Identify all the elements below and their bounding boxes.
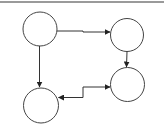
node-c[interactable] [111, 68, 145, 102]
edge-d-to-c-bidirectional [59, 87, 111, 98]
graph-diagram [0, 0, 164, 132]
node-b[interactable] [111, 19, 144, 52]
edge-b-to-c [127, 52, 128, 68]
node-d[interactable] [24, 88, 59, 123]
edge-a-to-b [57, 31, 110, 32]
node-a[interactable] [23, 12, 57, 46]
